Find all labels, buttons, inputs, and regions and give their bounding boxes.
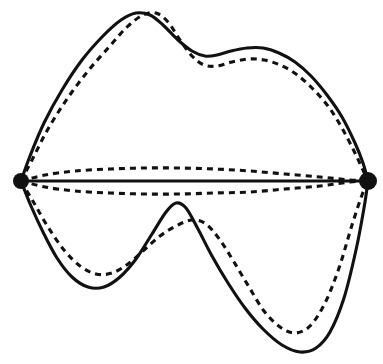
curve-diagram-canvas	[0, 0, 383, 364]
right-endpoint-node	[359, 172, 377, 190]
figure-container	[0, 0, 383, 364]
left-endpoint-node	[13, 173, 29, 189]
